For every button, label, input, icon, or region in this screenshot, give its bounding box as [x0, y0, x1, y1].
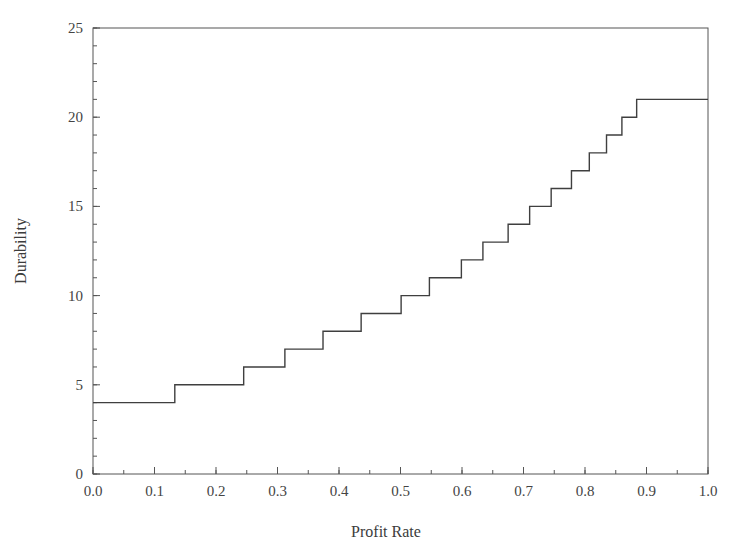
y-tick-label: 5	[76, 377, 84, 393]
x-tick-label: 0.6	[453, 483, 472, 499]
y-tick-label: 15	[68, 198, 83, 214]
y-tick-label: 25	[68, 20, 83, 36]
x-tick-label: 0.1	[145, 483, 164, 499]
x-tick-label: 0.8	[576, 483, 595, 499]
x-tick-label: 0.4	[330, 483, 349, 499]
x-axis-title: Profit Rate	[351, 523, 421, 540]
x-tick-label: 0.9	[637, 483, 656, 499]
x-tick-label: 0.3	[268, 483, 287, 499]
chart-canvas: 0.00.10.20.30.40.50.60.70.80.91.0 051015…	[0, 0, 744, 558]
chart-figure: 0.00.10.20.30.40.50.60.70.80.91.0 051015…	[0, 0, 744, 558]
x-tick-label: 0.7	[514, 483, 533, 499]
x-tick-label: 1.0	[699, 483, 718, 499]
y-tick-label: 20	[68, 109, 83, 125]
x-tick-label: 0.2	[207, 483, 226, 499]
y-tick-label: 0	[76, 466, 84, 482]
y-axis-title: Durability	[12, 218, 30, 284]
x-tick-label: 0.5	[391, 483, 410, 499]
y-tick-label: 10	[68, 288, 83, 304]
x-tick-label: 0.0	[84, 483, 103, 499]
